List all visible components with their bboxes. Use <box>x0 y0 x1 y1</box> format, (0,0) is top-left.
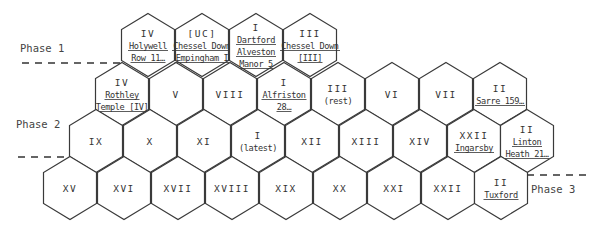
phase-numeral: XIII <box>352 136 381 147</box>
phase-numeral: II <box>494 177 508 188</box>
phase-numeral: IV <box>141 28 155 39</box>
phase-numeral: I <box>254 130 261 141</box>
phase-numeral: IV <box>115 77 129 88</box>
site-label: Heath 21… <box>506 149 549 159</box>
hex-grid: IVHolywellRow 11…[UC]Chessel DownEmpingh… <box>44 14 554 220</box>
phase-numeral: XI <box>197 136 211 147</box>
phase-numeral: XXII <box>434 183 463 194</box>
phase-numeral: XVII <box>164 183 193 194</box>
phase-numeral: XX <box>333 183 347 194</box>
phase-numeral: XIV <box>409 136 431 147</box>
site-label: Tuxford <box>484 190 518 200</box>
phase-numeral: VI <box>385 89 399 100</box>
phase-numeral: III <box>299 28 321 39</box>
site-label: (rest) <box>324 96 353 106</box>
site-label: Dartford <box>237 35 275 45</box>
site-label: Chessel Down <box>281 41 339 51</box>
phase-numeral: III <box>327 83 349 94</box>
phase-numeral: XXII <box>460 130 489 141</box>
phase-numeral: I <box>280 77 287 88</box>
phase-numeral: VII <box>435 89 457 100</box>
phase-hex-diagram: IVHolywellRow 11…[UC]Chessel DownEmpingh… <box>0 0 591 235</box>
phase-label: Phase 3 <box>531 183 575 195</box>
site-label: Chessel Down <box>173 41 231 51</box>
phase-numeral: XV <box>63 183 77 194</box>
site-label: Row 11… <box>131 53 165 63</box>
site-label: Temple [IV] <box>96 102 149 112</box>
phase-label: Phase 2 <box>16 118 60 130</box>
site-label: Empingham I <box>176 53 229 63</box>
phase-numeral: XVIII <box>214 183 250 194</box>
phase-numeral: [UC] <box>188 28 217 39</box>
phase-numeral: IX <box>89 136 103 147</box>
site-label: Holywell <box>129 41 167 51</box>
site-label: Rothley <box>105 90 139 100</box>
site-label: Sarre 159… <box>476 96 524 106</box>
site-label: Linton <box>513 137 542 147</box>
site-label: Alveston <box>237 47 275 57</box>
phase-numeral: XXI <box>383 183 405 194</box>
site-label: 28… <box>277 102 292 112</box>
phase-numeral: V <box>172 89 179 100</box>
phase-numeral: II <box>520 124 534 135</box>
phase-numeral: II <box>493 83 507 94</box>
phase-numeral: XVI <box>113 183 135 194</box>
site-label: Alfriston <box>263 90 306 100</box>
site-label: [III] <box>298 53 322 63</box>
phase-label: Phase 1 <box>20 42 64 54</box>
site-label: Manor 5 <box>239 59 273 69</box>
site-label: Ingarsby <box>455 143 493 153</box>
site-label: (latest) <box>239 143 277 153</box>
phase-numeral: XII <box>301 136 323 147</box>
phase-numeral: VIII <box>216 89 245 100</box>
phase-numeral: XIX <box>275 183 297 194</box>
phase-numeral: I <box>252 22 259 33</box>
phase-numeral: X <box>146 136 153 147</box>
